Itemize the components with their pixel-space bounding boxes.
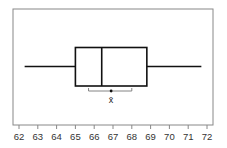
x-tick-label: 68: [127, 131, 138, 142]
x-axis: 6263646566676869707172: [14, 125, 213, 142]
x-tick-label: 67: [108, 131, 119, 142]
x-tick-label: 69: [145, 131, 156, 142]
mean-label: x̄: [109, 95, 114, 105]
mean-marker: [110, 90, 113, 93]
x-tick-label: 63: [33, 131, 44, 142]
box-plot: 6263646566676869707172 x̄: [0, 0, 227, 148]
x-tick-label: 66: [89, 131, 100, 142]
x-tick-label: 65: [70, 131, 81, 142]
x-tick-label: 62: [14, 131, 25, 142]
x-tick-label: 72: [202, 131, 213, 142]
x-tick-label: 71: [183, 131, 194, 142]
x-tick-label: 70: [164, 131, 175, 142]
x-tick-label: 64: [51, 131, 62, 142]
